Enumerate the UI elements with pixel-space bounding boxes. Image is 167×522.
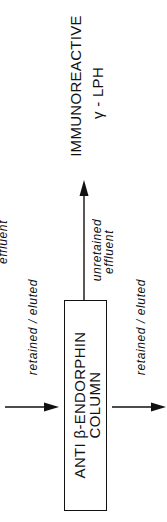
output-label-line2: γ - LPH [90,67,105,119]
input-arrow [5,403,59,412]
partial-effluent-label: effluent [0,220,9,264]
output-label-line1: IMMUNOREACTIVE [68,15,83,157]
column-label-line2: COLUMN [87,372,102,439]
unretained-label-line2: effluent [103,230,115,274]
column-label-line1: ANTI β-ENDORPHIN [72,332,87,479]
flow-diagram: IMMUNOREACTIVE γ - LPH unretained efflue… [0,0,167,522]
input-retained-label: retained / eluted [27,279,39,375]
output-retained-label: retained / eluted [135,279,147,375]
output-arrow [112,403,166,412]
unretained-arrow [80,180,89,300]
